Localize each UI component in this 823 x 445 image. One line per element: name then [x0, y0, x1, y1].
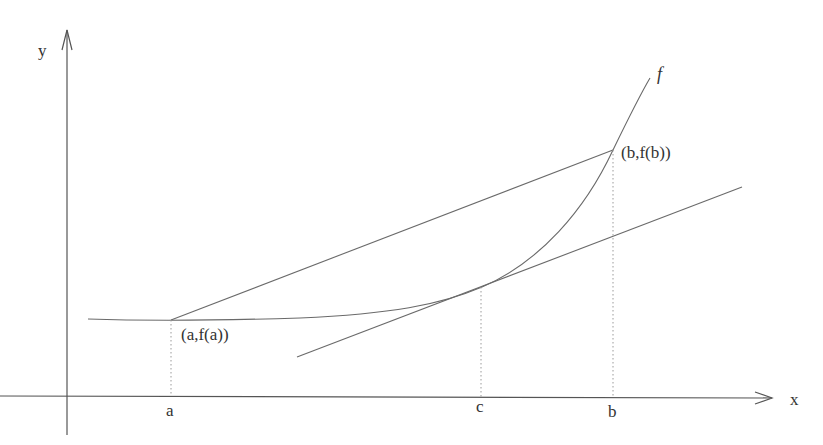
point-label-b: (b,f(b)): [621, 143, 671, 162]
y-axis-label: y: [38, 41, 47, 60]
tick-label-b: b: [608, 402, 617, 421]
secant-line: [171, 150, 613, 320]
tangent-line: [297, 187, 742, 357]
mvt-diagram: y x f (b,f(b)) (a,f(a)) a c b: [0, 0, 823, 445]
curve-f: [88, 78, 650, 320]
point-label-a: (a,f(a)): [181, 325, 229, 344]
tick-label-c: c: [476, 397, 484, 416]
curve-label-f: f: [657, 64, 665, 84]
x-axis: [0, 396, 772, 398]
x-axis-label: x: [790, 390, 799, 409]
tick-label-a: a: [166, 401, 174, 420]
